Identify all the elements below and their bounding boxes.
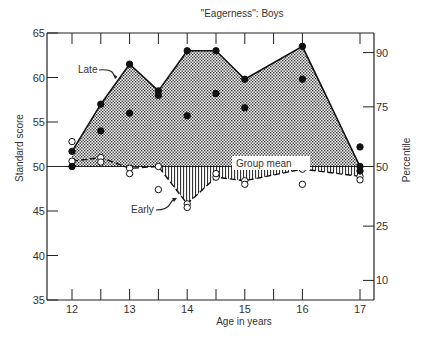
group-mean-annotation: Group mean bbox=[232, 156, 310, 170]
filled-point bbox=[126, 61, 132, 67]
filled-point bbox=[69, 148, 75, 154]
x-tick-label: 14 bbox=[181, 303, 193, 315]
filled-point bbox=[242, 76, 248, 82]
filled-point bbox=[184, 48, 190, 54]
y2-tick-label: 10 bbox=[376, 274, 388, 286]
filled-point bbox=[155, 92, 161, 98]
eagerness-chart: 354045505560651025507590121314151617 ''E… bbox=[0, 0, 428, 339]
y2-tick-label: 25 bbox=[376, 220, 388, 232]
y-tick-label: 40 bbox=[33, 250, 45, 262]
late-stippled-area bbox=[72, 46, 360, 166]
filled-point bbox=[213, 48, 219, 54]
y-tick-label: 45 bbox=[33, 205, 45, 217]
chart-title: ''Eagerness'': Boys bbox=[200, 8, 283, 19]
y-tick-label: 35 bbox=[33, 294, 45, 306]
open-point bbox=[357, 177, 363, 183]
open-point bbox=[242, 181, 248, 187]
y2-tick-label: 50 bbox=[376, 161, 388, 173]
filled-point bbox=[126, 110, 132, 116]
x-tick-label: 15 bbox=[239, 303, 251, 315]
x-tick-label: 16 bbox=[296, 303, 308, 315]
x-tick-label: 17 bbox=[354, 303, 366, 315]
filled-point bbox=[357, 144, 363, 150]
early-annotation: Early bbox=[131, 198, 177, 215]
filled-point bbox=[213, 90, 219, 96]
open-point bbox=[69, 138, 75, 144]
filled-point bbox=[98, 128, 104, 134]
group-mean-label: Group mean bbox=[236, 158, 292, 169]
y-tick-label: 60 bbox=[33, 72, 45, 84]
open-point bbox=[98, 159, 104, 165]
y2-tick-label: 90 bbox=[376, 47, 388, 59]
x-axis-label: Age in years bbox=[216, 316, 272, 327]
y-tick-label: 65 bbox=[33, 27, 45, 39]
filled-point bbox=[69, 163, 75, 169]
y-tick-label: 55 bbox=[33, 116, 45, 128]
open-point bbox=[155, 186, 161, 192]
filled-point bbox=[98, 101, 104, 107]
filled-point bbox=[184, 113, 190, 119]
y-axis-label: Standard score bbox=[14, 114, 25, 182]
late-label: Late bbox=[78, 64, 98, 75]
open-point bbox=[126, 170, 132, 176]
open-point bbox=[213, 170, 219, 176]
filled-point bbox=[299, 43, 305, 49]
filled-point bbox=[299, 76, 305, 82]
y2-axis-label: Percentile bbox=[401, 137, 412, 182]
y2-tick-label: 75 bbox=[376, 101, 388, 113]
open-point bbox=[155, 163, 161, 169]
open-point bbox=[299, 181, 305, 187]
late-annotation: Late bbox=[78, 64, 117, 79]
early-arrow bbox=[156, 199, 175, 210]
x-tick-label: 13 bbox=[123, 303, 135, 315]
early-label: Early bbox=[131, 204, 154, 215]
y-tick-label: 50 bbox=[33, 161, 45, 173]
filled-point bbox=[357, 168, 363, 174]
open-point bbox=[184, 204, 190, 210]
filled-point bbox=[242, 105, 248, 111]
x-tick-label: 12 bbox=[66, 303, 78, 315]
